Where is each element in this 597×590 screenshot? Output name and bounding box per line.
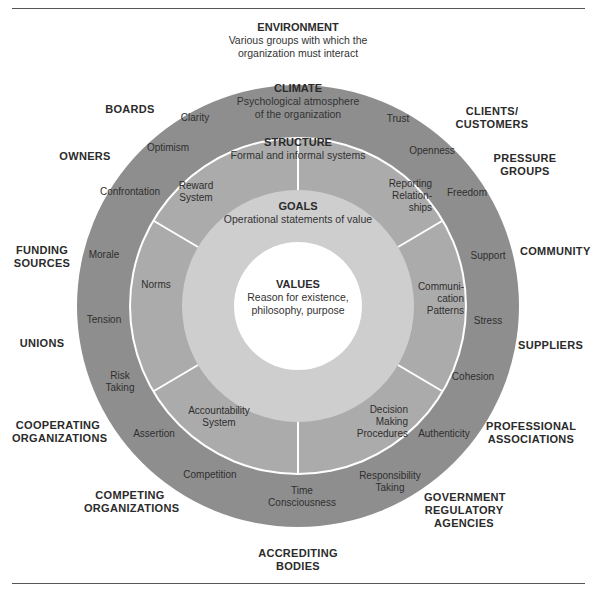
values-title: VALUES bbox=[228, 277, 368, 291]
environment-title: ENVIRONMENT bbox=[198, 20, 398, 34]
climate-item-freedom: Freedom bbox=[442, 187, 492, 199]
climate-item-risk-taking: RiskTaking bbox=[98, 370, 142, 394]
climate-item-cohesion: Cohesion bbox=[448, 371, 498, 383]
goals-title: GOALS bbox=[218, 199, 378, 213]
structure-title: STRUCTURE bbox=[228, 135, 368, 149]
climate-item-assertion: Assertion bbox=[128, 428, 180, 440]
climate-item-tension: Tension bbox=[82, 314, 126, 326]
climate-item-confrontation: Confrontation bbox=[98, 186, 162, 198]
env-group-suppliers: SUPPLIERS bbox=[518, 339, 582, 352]
climate-item-morale: Morale bbox=[82, 249, 126, 261]
env-group-community: COMMUNITY bbox=[520, 245, 588, 258]
env-group-pressure-groups: PRESSURE GROUPS bbox=[490, 152, 560, 178]
climate-header: CLIMATE Psychological atmosphere of the … bbox=[218, 81, 378, 121]
structure-item-reward-system: RewardSystem bbox=[174, 180, 218, 204]
climate-subtitle-2: of the organization bbox=[218, 108, 378, 121]
climate-item-responsibility-taking: ResponsibilityTaking bbox=[355, 470, 425, 494]
values-subtitle-2: philosophy, purpose bbox=[228, 304, 368, 317]
env-group-cooperating-organizations: COOPERATING ORGANIZATIONS bbox=[12, 419, 104, 445]
structure-header: STRUCTURE Formal and informal systems bbox=[228, 135, 368, 162]
values-header: VALUES Reason for existence, philosophy,… bbox=[228, 277, 368, 317]
env-group-competing-organizations: COMPETING ORGANIZATIONS bbox=[84, 489, 176, 515]
climate-item-optimism: Optimism bbox=[138, 142, 198, 154]
climate-item-trust: Trust bbox=[380, 113, 416, 125]
climate-title: CLIMATE bbox=[218, 81, 378, 95]
structure-item-communication-patterns: Communi-cationPatterns bbox=[412, 281, 464, 317]
goals-subtitle: Operational statements of value bbox=[218, 213, 378, 226]
env-group-boards: BOARDS bbox=[100, 103, 160, 116]
structure-item-decision-making-procedures: DecisionMakingProcedures bbox=[348, 404, 408, 440]
env-group-professional-associations: PROFESSIONAL ASSOCIATIONS bbox=[486, 420, 576, 446]
climate-item-authenticity: Authenticity bbox=[414, 428, 474, 440]
climate-item-competition: Competition bbox=[178, 469, 242, 481]
climate-item-support: Support bbox=[465, 250, 511, 262]
values-subtitle-1: Reason for existence, bbox=[228, 291, 368, 304]
env-group-government-regulatory-agencies: GOVERNMENT REGULATORY AGENCIES bbox=[424, 491, 504, 530]
goals-header: GOALS Operational statements of value bbox=[218, 199, 378, 226]
climate-subtitle-1: Psychological atmosphere bbox=[218, 95, 378, 108]
env-group-funding-sources: FUNDING SOURCES bbox=[12, 244, 72, 270]
climate-item-stress: Stress bbox=[468, 315, 508, 327]
env-group-unions: UNIONS bbox=[12, 337, 72, 350]
environment-subtitle-2: organization must interact bbox=[198, 47, 398, 60]
env-group-owners: OWNERS bbox=[55, 150, 115, 163]
environment-header: ENVIRONMENT Various groups with which th… bbox=[198, 20, 398, 60]
structure-subtitle: Formal and informal systems bbox=[228, 149, 368, 162]
structure-item-accountability-system: AccountabilitySystem bbox=[178, 405, 260, 429]
structure-item-reporting-relationships: ReportingRelation-ships bbox=[378, 178, 432, 214]
climate-item-time-consciousness: TimeConsciousness bbox=[264, 485, 340, 509]
environment-subtitle-1: Various groups with which the bbox=[198, 34, 398, 47]
env-group-accrediting-bodies: ACCREDITING BODIES bbox=[258, 547, 338, 573]
climate-item-openness: Openness bbox=[406, 145, 458, 157]
env-group-clients-customers: CLIENTS/ CUSTOMERS bbox=[452, 105, 532, 131]
climate-item-clarity: Clarity bbox=[170, 112, 220, 124]
structure-item-norms: Norms bbox=[136, 279, 176, 291]
